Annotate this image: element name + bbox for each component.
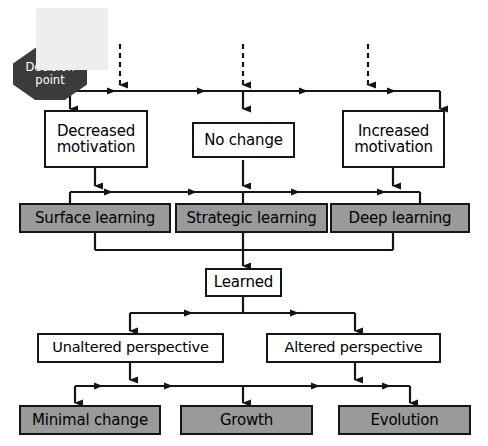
- node-label: Surface learning: [35, 210, 155, 226]
- bus-perspective: [130, 297, 355, 331]
- node-label: Decreased motivation: [57, 123, 136, 155]
- node-label: Minimal change: [32, 412, 148, 428]
- node-label: Growth: [220, 412, 273, 428]
- node-decreased-motivation[interactable]: Decreased motivation: [44, 110, 148, 168]
- flowchart-canvas: Decision point Decreased motivation No c…: [0, 0, 488, 446]
- link-perspective-to-bus: [130, 363, 355, 380]
- node-learned[interactable]: Learned: [205, 268, 282, 297]
- node-increased-motivation[interactable]: Increased motivation: [342, 110, 445, 168]
- node-label: No change: [204, 132, 283, 148]
- node-label: Strategic learning: [186, 210, 316, 226]
- node-label: Deep learning: [349, 210, 452, 226]
- node-label: Evolution: [370, 412, 438, 428]
- node-minimal-change[interactable]: Minimal change: [19, 405, 161, 435]
- node-deep-learning[interactable]: Deep learning: [330, 203, 470, 233]
- node-evolution[interactable]: Evolution: [338, 405, 471, 435]
- node-strategic-learning[interactable]: Strategic learning: [175, 203, 328, 233]
- node-label: Unaltered perspective: [52, 340, 208, 356]
- node-unaltered-perspective[interactable]: Unaltered perspective: [37, 333, 224, 363]
- bus-outcome: [75, 386, 410, 403]
- bus-motivation: [70, 91, 440, 109]
- node-label: Altered perspective: [284, 340, 422, 356]
- overlay-note: [36, 8, 108, 70]
- node-label: Learned: [214, 274, 273, 290]
- node-label: Increased motivation: [354, 123, 433, 155]
- node-surface-learning[interactable]: Surface learning: [19, 203, 171, 233]
- node-altered-perspective[interactable]: Altered perspective: [266, 333, 441, 363]
- node-growth[interactable]: Growth: [180, 405, 313, 435]
- node-no-change[interactable]: No change: [192, 122, 295, 158]
- link-learning-to-learned: [95, 232, 393, 266]
